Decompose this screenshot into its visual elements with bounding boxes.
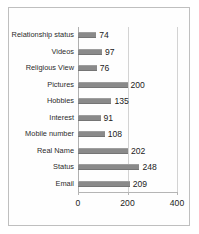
bar-value-label: 76 [100, 60, 110, 77]
category-label: Videos [0, 44, 74, 61]
bar-chart-figure: Relationship status74Videos97Religious V… [0, 0, 199, 234]
plot-area: Relationship status74Videos97Religious V… [78, 27, 177, 192]
bar-row: Email209 [78, 176, 177, 193]
bar [78, 164, 139, 170]
bar-row: Hobbies135 [78, 93, 177, 110]
bar [78, 131, 105, 137]
x-tick-label: 400 [162, 197, 192, 209]
category-label: Status [0, 159, 74, 176]
category-label: Email [0, 176, 74, 193]
bar-row: Status248 [78, 159, 177, 176]
tick-mark-200 [128, 192, 129, 195]
bar-value-label: 108 [108, 126, 122, 143]
bar-row: Interest91 [78, 110, 177, 127]
bar-row: Pictures200 [78, 77, 177, 94]
category-label: Hobbies [0, 93, 74, 110]
bar-value-label: 91 [104, 110, 114, 127]
tick-mark-400 [177, 192, 178, 195]
bar [78, 181, 130, 187]
bar-value-label: 200 [131, 77, 145, 94]
category-label: Real Name [0, 143, 74, 160]
x-tick-label: 200 [113, 197, 143, 209]
bar [78, 49, 102, 55]
tick-mark-0 [78, 192, 79, 195]
bar-row: Real Name202 [78, 143, 177, 160]
bar [78, 32, 96, 38]
bar [78, 98, 111, 104]
bar [78, 65, 97, 71]
bar [78, 82, 128, 88]
bar-row: Religious View76 [78, 60, 177, 77]
bar-value-label: 97 [105, 44, 115, 61]
bar [78, 115, 101, 121]
bar-row: Relationship status74 [78, 27, 177, 44]
bar-row: Videos97 [78, 44, 177, 61]
bar-value-label: 209 [133, 176, 147, 193]
category-label: Religious View [0, 60, 74, 77]
bar-value-label: 202 [131, 143, 145, 160]
bar-value-label: 135 [114, 93, 128, 110]
bar-value-label: 74 [99, 27, 109, 44]
gridline-400 [177, 27, 178, 192]
category-label: Interest [0, 110, 74, 127]
category-label: Mobile number [0, 126, 74, 143]
bar-value-label: 248 [142, 159, 156, 176]
category-label: Relationship status [0, 27, 74, 44]
bar [78, 148, 128, 154]
x-tick-label: 0 [63, 197, 93, 209]
category-label: Pictures [0, 77, 74, 94]
bar-row: Mobile number108 [78, 126, 177, 143]
